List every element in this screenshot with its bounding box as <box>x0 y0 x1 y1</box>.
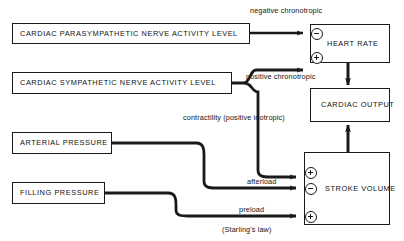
edge-label-afterload: afterload <box>247 178 276 185</box>
node-filling-pressure: FILLING PRESSURE <box>12 182 105 204</box>
node-label: CARDIAC SYMPATHETIC NERVE ACTIVITY LEVEL <box>13 79 216 86</box>
edge-sympathetic-strokevolume <box>244 83 296 177</box>
edge-label-negative-chronotropic: negative chronotropic <box>250 7 322 14</box>
edge-label-positive-chronotropic: positive chronotropic <box>246 73 315 80</box>
node-cardiac-parasympathetic-nerve-activity-level: CARDIAC PARASYMPATHETIC NERVE ACTIVITY L… <box>12 23 250 44</box>
node-label: ARTERIAL PRESSURE <box>13 139 108 146</box>
edge-label-contractility: contractility (positive inotropic) <box>183 114 285 121</box>
diagram-canvas: CARDIAC PARASYMPATHETIC NERVE ACTIVITY L… <box>0 0 404 241</box>
sign-marker-heart-rate-negative <box>311 28 323 40</box>
sign-marker-stroke-volume-contractility <box>305 167 317 179</box>
node-label: HEART RATE <box>311 40 379 47</box>
node-arterial-pressure: ARTERIAL PRESSURE <box>12 132 112 154</box>
node-label: CARDIAC OUTPUT <box>311 101 394 108</box>
edge-label-starlings-law: (Starling's law) <box>222 226 272 233</box>
node-label: FILLING PRESSURE <box>13 189 99 196</box>
node-label: STROKE VOLUME <box>305 185 396 192</box>
sign-marker-stroke-volume-afterload <box>305 183 317 195</box>
node-cardiac-output: CARDIAC OUTPUT <box>310 88 390 122</box>
sign-marker-heart-rate-positive <box>311 52 323 64</box>
edge-filling-strokevolume <box>105 193 296 216</box>
node-label: CARDIAC PARASYMPATHETIC NERVE ACTIVITY L… <box>13 30 238 37</box>
node-cardiac-sympathetic-nerve-activity-level: CARDIAC SYMPATHETIC NERVE ACTIVITY LEVEL <box>12 72 232 94</box>
sign-marker-stroke-volume-preload <box>305 211 317 223</box>
edge-label-preload: preload <box>239 206 264 213</box>
